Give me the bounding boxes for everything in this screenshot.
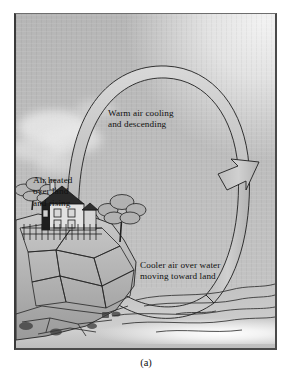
figure-container: Warm air cooling and descending Air heat…	[0, 0, 292, 387]
illustration-panel: Warm air cooling and descending Air heat…	[14, 13, 277, 350]
label-air-heated: Air heated over land and rising	[33, 175, 73, 209]
figure-caption: (a)	[0, 357, 292, 368]
rocky-cliff	[16, 214, 136, 340]
waves	[112, 284, 275, 332]
label-cooler-air: Cooler air over water moving toward land	[140, 260, 220, 283]
label-warm-air: Warm air cooling and descending	[108, 108, 174, 131]
